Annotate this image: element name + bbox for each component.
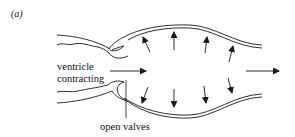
artery-lower-wall [124,94,262,118]
heart-valve-diagram [0,0,295,137]
label-ventricle: ventricle [57,62,94,73]
arrow-up-icon [229,46,233,62]
ventricle-lower-wall [57,85,112,103]
label-open-valves: open valves [100,122,150,133]
arrow-up-icon [205,37,207,53]
label-contracting: contracting [57,74,104,85]
ventricle-upper-wall [57,35,110,53]
pressure-arrows-up [143,32,233,62]
arrow-up-icon [143,37,150,52]
artery-upper-wall [124,25,262,48]
arrow-down-icon [204,86,206,103]
upper-valve-flap [109,37,128,58]
arrow-down-icon [142,87,148,103]
arrow-down-icon [228,78,232,93]
pressure-arrows-down [142,78,232,107]
